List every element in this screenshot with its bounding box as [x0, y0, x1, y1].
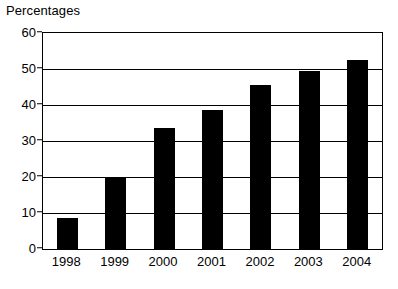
bar-2002 — [250, 85, 271, 249]
y-axis-tick-label: 0 — [29, 241, 36, 256]
bars-layer — [43, 33, 382, 249]
bar-1999 — [105, 177, 126, 249]
x-axis-tick-label-2000: 2000 — [149, 254, 178, 269]
x-axis: 1998199920002001200220032004 — [42, 252, 383, 280]
y-axis-tick-label: 50 — [22, 61, 36, 76]
bar-2000 — [154, 128, 175, 249]
bar-2003 — [299, 71, 320, 249]
bar-chart-figure: Percentages 0102030405060 19981999200020… — [0, 0, 398, 289]
bar-1998 — [57, 218, 78, 249]
x-axis-tick-label-1998: 1998 — [52, 254, 81, 269]
y-axis-tick-label: 60 — [22, 25, 36, 40]
plot-area — [42, 32, 383, 250]
y-axis-tick-label: 20 — [22, 169, 36, 184]
x-axis-tick-label-2004: 2004 — [342, 254, 371, 269]
y-axis: 0102030405060 — [0, 32, 42, 250]
chart-title: Percentages — [6, 3, 80, 18]
x-axis-tick-label-2001: 2001 — [197, 254, 226, 269]
y-axis-tick-label: 30 — [22, 133, 36, 148]
x-axis-tick-label-1999: 1999 — [100, 254, 129, 269]
bar-2001 — [202, 110, 223, 249]
bar-2004 — [347, 60, 368, 249]
y-axis-tick-label: 10 — [22, 205, 36, 220]
x-axis-tick-label-2002: 2002 — [245, 254, 274, 269]
x-axis-tick-label-2003: 2003 — [294, 254, 323, 269]
y-axis-tick-label: 40 — [22, 97, 36, 112]
